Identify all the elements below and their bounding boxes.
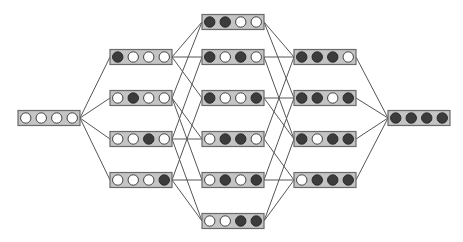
- bit-on-dot-icon: [422, 113, 432, 123]
- node-1011: [294, 132, 356, 147]
- bit-on-dot-icon: [251, 216, 261, 226]
- node-0010: [110, 132, 172, 147]
- bit-on-dot-icon: [343, 175, 353, 185]
- edge-1001-1011: [264, 98, 294, 139]
- edge-0110-0111: [264, 139, 294, 180]
- bit-off-dot-icon: [205, 216, 215, 226]
- bit-on-dot-icon: [312, 175, 322, 185]
- bit-off-dot-icon: [220, 216, 230, 226]
- node-1101: [294, 91, 356, 106]
- bit-on-dot-icon: [343, 93, 353, 103]
- bit-on-dot-icon: [236, 52, 246, 62]
- bit-off-dot-icon: [205, 134, 215, 144]
- node-0111: [294, 173, 356, 188]
- bit-off-dot-icon: [21, 113, 31, 123]
- edge-0011-0111: [264, 180, 294, 221]
- edge-0000-1000: [80, 57, 110, 118]
- bit-off-dot-icon: [236, 93, 246, 103]
- bit-on-dot-icon: [220, 175, 230, 185]
- node-0101: [202, 173, 264, 188]
- bit-on-dot-icon: [297, 93, 307, 103]
- node-1001: [202, 91, 264, 106]
- bit-on-dot-icon: [328, 175, 338, 185]
- edge-0010-1010: [172, 57, 202, 139]
- bit-on-dot-icon: [297, 134, 307, 144]
- node-0011: [202, 214, 264, 229]
- bit-off-dot-icon: [67, 113, 77, 123]
- bit-on-dot-icon: [437, 113, 447, 123]
- node-1111: [388, 111, 450, 126]
- edge-1100-1101: [264, 22, 294, 98]
- bit-off-dot-icon: [144, 52, 154, 62]
- bit-on-dot-icon: [159, 175, 169, 185]
- bit-off-dot-icon: [159, 52, 169, 62]
- bit-on-dot-icon: [251, 175, 261, 185]
- bit-on-dot-icon: [205, 93, 215, 103]
- edge-0111-1111: [356, 118, 388, 180]
- edge-1000-1100: [172, 22, 202, 57]
- node-1010: [202, 50, 264, 65]
- bit-off-dot-icon: [128, 134, 138, 144]
- edge-0000-0001: [80, 118, 110, 180]
- bit-on-dot-icon: [297, 52, 307, 62]
- bit-on-dot-icon: [328, 134, 338, 144]
- bit-off-dot-icon: [236, 175, 246, 185]
- bit-off-dot-icon: [220, 93, 230, 103]
- bit-off-dot-icon: [236, 17, 246, 27]
- bit-off-dot-icon: [113, 175, 123, 185]
- bit-on-dot-icon: [391, 113, 401, 123]
- bit-off-dot-icon: [328, 93, 338, 103]
- edge-0001-0011: [172, 180, 202, 221]
- bit-on-dot-icon: [343, 134, 353, 144]
- bit-on-dot-icon: [251, 93, 261, 103]
- edge-0000-0010: [80, 118, 110, 139]
- nodes-layer: [18, 15, 450, 229]
- node-1000: [110, 50, 172, 65]
- bit-off-dot-icon: [297, 175, 307, 185]
- boolean-lattice-diagram: [0, 0, 463, 242]
- bit-off-dot-icon: [113, 134, 123, 144]
- edge-1011-1111: [356, 118, 388, 139]
- bit-on-dot-icon: [220, 17, 230, 27]
- bit-on-dot-icon: [205, 17, 215, 27]
- edge-1100-1110: [264, 22, 294, 57]
- bit-on-dot-icon: [328, 52, 338, 62]
- bit-off-dot-icon: [52, 113, 62, 123]
- bit-off-dot-icon: [128, 175, 138, 185]
- edge-1110-1111: [356, 57, 388, 118]
- bit-off-dot-icon: [312, 134, 322, 144]
- bit-on-dot-icon: [113, 52, 123, 62]
- bit-on-dot-icon: [144, 134, 154, 144]
- bit-off-dot-icon: [144, 93, 154, 103]
- bit-off-dot-icon: [251, 134, 261, 144]
- bit-off-dot-icon: [251, 52, 261, 62]
- bit-off-dot-icon: [36, 113, 46, 123]
- bit-off-dot-icon: [220, 52, 230, 62]
- bit-on-dot-icon: [406, 113, 416, 123]
- node-0110: [202, 132, 264, 147]
- edge-0101-1101: [264, 98, 294, 180]
- node-1100: [202, 15, 264, 30]
- bit-off-dot-icon: [144, 175, 154, 185]
- bit-on-dot-icon: [312, 93, 322, 103]
- node-0000: [18, 111, 80, 126]
- bit-on-dot-icon: [128, 93, 138, 103]
- node-0100: [110, 91, 172, 106]
- bit-on-dot-icon: [220, 134, 230, 144]
- bit-off-dot-icon: [343, 52, 353, 62]
- node-1110: [294, 50, 356, 65]
- bit-on-dot-icon: [312, 52, 322, 62]
- bit-on-dot-icon: [236, 216, 246, 226]
- bit-on-dot-icon: [236, 134, 246, 144]
- edge-0100-1100: [172, 22, 202, 98]
- edge-0100-0110: [172, 98, 202, 139]
- node-0001: [110, 173, 172, 188]
- bit-off-dot-icon: [205, 175, 215, 185]
- bit-off-dot-icon: [251, 17, 261, 27]
- bit-on-dot-icon: [205, 52, 215, 62]
- edge-1000-1001: [172, 57, 202, 98]
- bit-off-dot-icon: [159, 93, 169, 103]
- bit-off-dot-icon: [113, 93, 123, 103]
- bit-off-dot-icon: [159, 134, 169, 144]
- bit-off-dot-icon: [128, 52, 138, 62]
